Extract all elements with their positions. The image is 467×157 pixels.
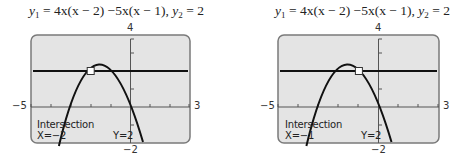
y-max-label: 4 [375, 22, 381, 33]
y-min-label: −2 [371, 144, 386, 155]
y-readout: Y=2 [361, 130, 381, 141]
intersection-heading: Intersection [37, 119, 94, 130]
graph-panel-left: y1 = 4x(x − 2) −5x(x − 1), y2 = 2 4 −2 −… [0, 0, 233, 157]
x-min-label: −5 [12, 100, 27, 111]
x-max-label: 3 [194, 100, 200, 111]
x-min-label: −5 [260, 100, 275, 111]
x-readout: X=−2 [37, 130, 66, 141]
graph-panel-right: y1 = 4x(x − 2) −5x(x − 1), y2 = 2 4 −2 −… [234, 0, 467, 157]
intersection-heading: Intersection [285, 119, 342, 130]
intersection-cursor [355, 68, 362, 75]
y-readout: Y=2 [113, 130, 133, 141]
intersection-cursor [87, 68, 94, 75]
calculator-screen [234, 0, 467, 157]
x-max-label: 3 [443, 100, 449, 111]
x-readout: X=−1 [285, 130, 314, 141]
y-max-label: 4 [127, 22, 133, 33]
y-min-label: −2 [123, 144, 138, 155]
